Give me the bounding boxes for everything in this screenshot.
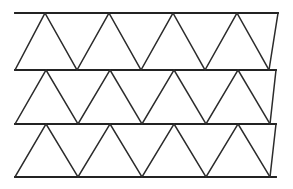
band-3-right-edge-2 [46,124,78,177]
band-2-left-edge-9 [270,70,276,124]
band-3-right-edge-6 [174,124,206,177]
band-3-left-edge-1 [15,124,46,177]
band-3-right-edge-8 [238,124,270,177]
band-2-left-edge-1 [15,70,46,124]
band-3-left-edge-5 [142,124,174,177]
band-1-right-edge-2 [45,13,77,70]
band-3-left-edge-3 [78,124,110,177]
band-1-left-edge-5 [141,13,173,70]
band-1 [15,13,278,70]
band-2-left-edge-3 [78,70,110,124]
band-2-right-edge-6 [174,70,206,124]
band-2-left-edge-7 [206,70,238,124]
band-1-right-edge-6 [173,13,205,70]
band-3-right-edge-4 [110,124,142,177]
triangle-bands-group [15,13,278,177]
band-1-right-edge-4 [109,13,141,70]
band-1-left-edge-9 [269,13,278,70]
band-3-left-edge-9 [270,124,276,177]
band-3 [15,124,276,177]
band-2-right-edge-2 [46,70,78,124]
band-2-left-edge-5 [142,70,174,124]
band-2-right-edge-8 [238,70,270,124]
band-2-right-edge-4 [110,70,142,124]
tessellation-figure: Triangular tessellation Black line drawi… [0,0,293,189]
horizontal-rails-group [15,13,278,177]
band-1-left-edge-1 [15,13,45,70]
band-3-left-edge-7 [206,124,238,177]
band-1-right-edge-8 [237,13,269,70]
tessellation-svg: Triangular tessellation Black line drawi… [0,0,293,189]
band-2 [15,70,276,124]
band-1-left-edge-7 [205,13,237,70]
band-1-left-edge-3 [77,13,109,70]
